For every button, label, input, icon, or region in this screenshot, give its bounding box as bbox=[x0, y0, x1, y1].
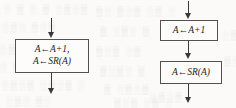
arrow-down-out-of-merged-box-head bbox=[48, 88, 54, 94]
shift-right-box-line-1: A←SR(A) bbox=[172, 67, 210, 79]
increment-box[interactable]: A←A+1 bbox=[160, 20, 218, 41]
background-bleed-mark: ▒░ ▒░▒ ░▒ ░ bbox=[96, 6, 177, 16]
background-bleed-mark: ▒░▒░ ▒ bbox=[100, 66, 146, 76]
arrow-down-into-merged-box-head bbox=[48, 32, 54, 38]
arrow-down-out-of-merged-box-stem bbox=[51, 73, 52, 89]
background-bleed-mark: ░▒ ░ bbox=[222, 30, 236, 40]
background-bleed-mark: ▒░▒ bbox=[224, 56, 236, 66]
merged-assignment-box[interactable]: A←A+1, A←SR(A) bbox=[15, 39, 89, 73]
background-bleed-mark: ░▒░ ▒░▒ bbox=[2, 22, 57, 32]
arrow-down-into-merged-box-stem bbox=[51, 18, 52, 33]
background-bleed-mark: ▒ ░▒░▒ bbox=[104, 84, 150, 94]
shift-right-box[interactable]: A←SR(A) bbox=[160, 61, 222, 84]
background-bleed-mark: ▒░▒ ░▒ bbox=[96, 46, 142, 56]
merged-assignment-line-2: A←SR(A) bbox=[33, 56, 71, 68]
arrow-down-out-of-shift-box-stem bbox=[188, 84, 189, 98]
background-bleed-mark: ░▒░▒ ░▒░▒ ░ bbox=[2, 80, 86, 90]
flowchart-diagram: ░ ▒ ░ ▒ ░▒░▒▒░ ▒░▒ ░▒ ░░▒░ ▒░▒▒ ░▒░ ▒░▒ … bbox=[0, 0, 236, 108]
background-bleed-mark: ░ ▒ ░ ▒ ░▒░▒ bbox=[4, 4, 89, 14]
background-bleed-mark: ▒ ░▒░ ▒ bbox=[100, 26, 151, 36]
increment-box-line-1: A←A+1 bbox=[173, 25, 205, 37]
background-bleed-mark: ░▒░▒ bbox=[150, 92, 184, 102]
arrow-down-increment-to-shift-head bbox=[185, 53, 191, 59]
arrow-down-out-of-shift-box-head bbox=[185, 97, 191, 103]
merged-assignment-line-1: A←A+1, bbox=[35, 44, 70, 56]
background-bleed-mark: ░▒░ ▒░ bbox=[6, 96, 52, 106]
arrow-down-into-increment-box-head bbox=[185, 13, 191, 19]
